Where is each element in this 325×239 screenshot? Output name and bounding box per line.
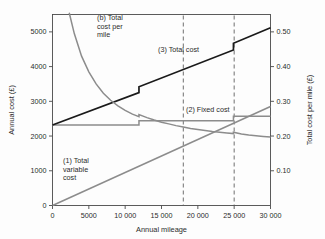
series-line-2	[53, 28, 271, 125]
x-tick-label: 0	[51, 211, 55, 220]
annotation-cost-per-mile: (b) Totalcost permile	[97, 13, 123, 39]
x-tick-label: 20 000	[187, 211, 209, 220]
y-tick-label-right: 0.20	[277, 132, 291, 141]
chart-figure: 0100020003000400050000.100.200.300.400.5…	[0, 0, 325, 239]
y-tick-label-right: 0.30	[277, 97, 291, 106]
x-tick-label: 10 000	[114, 211, 136, 220]
x-axis-title: Annual mileage	[136, 225, 187, 234]
x-tick-label: 30 000	[260, 211, 282, 220]
x-tick-label: 25 000	[223, 211, 245, 220]
y-tick-label-left: 0	[43, 201, 47, 210]
y-axis-title-left: Annual cost (£)	[7, 85, 16, 135]
y-tick-label-left: 1000	[31, 166, 47, 175]
chart-canvas: 0100020003000400050000.100.200.300.400.5…	[0, 0, 325, 239]
annotation-line: mile	[97, 30, 110, 39]
x-tick-label: 5000	[81, 211, 97, 220]
y-tick-label-left: 2000	[31, 132, 47, 141]
annotation-fixed-cost: (2) Fixed cost	[186, 105, 230, 114]
y-tick-label-left: 3000	[31, 97, 47, 106]
y-tick-label-right: 0.10	[277, 166, 291, 175]
annotation-line: (2) Fixed cost	[186, 105, 230, 114]
y-tick-label-right: 0.40	[277, 62, 291, 71]
annotation-total-variable-cost: (1) Totalvariablecost	[63, 156, 89, 182]
y-axis-title-right: Total cost per mile (£)	[305, 75, 314, 146]
y-tick-label-right: 0.50	[277, 27, 291, 36]
y-tick-label-left: 5000	[31, 27, 47, 36]
annotation-total-cost: (3) Total cost	[158, 45, 199, 54]
plot-frame	[53, 15, 271, 206]
x-tick-label: 15 000	[151, 211, 173, 220]
y-tick-label-left: 4000	[31, 62, 47, 71]
annotation-line: (3) Total cost	[158, 45, 199, 54]
annotation-line: cost	[63, 173, 76, 182]
